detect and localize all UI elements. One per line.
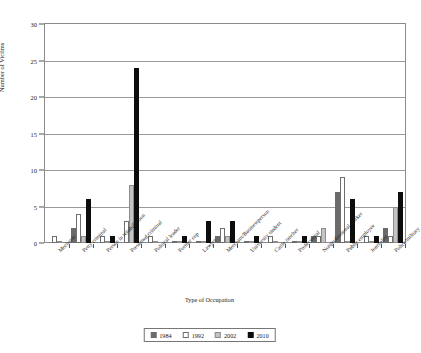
bar xyxy=(172,241,176,243)
bar xyxy=(52,236,56,243)
legend-swatch-icon xyxy=(183,332,189,338)
bar xyxy=(153,241,157,243)
bar-group xyxy=(381,24,405,243)
bar-group xyxy=(333,24,357,243)
bar-group xyxy=(45,24,69,243)
legend-swatch-icon xyxy=(247,332,253,338)
y-tick-label: 25 xyxy=(30,57,37,64)
legend-swatch-icon xyxy=(150,332,156,338)
bar-group xyxy=(93,24,117,243)
bar xyxy=(292,241,296,243)
legend-item: 2010 xyxy=(247,332,268,339)
bar xyxy=(398,192,402,243)
chart-legend: 1984199220022010 xyxy=(143,328,276,342)
x-axis-title: Type of Occupation xyxy=(0,296,419,303)
bar xyxy=(369,241,373,243)
legend-item: 1984 xyxy=(150,332,171,339)
legend-label: 1984 xyxy=(159,332,171,339)
bar xyxy=(86,199,90,243)
bar xyxy=(393,207,397,244)
y-axis-title: Number of Victims xyxy=(0,43,5,92)
bar-group xyxy=(309,24,333,243)
legend-item: 1992 xyxy=(183,332,204,339)
bar xyxy=(129,185,133,243)
y-tick-label: 15 xyxy=(30,130,37,137)
y-tick-label: 0 xyxy=(34,240,37,247)
bar xyxy=(225,236,229,243)
bar-group xyxy=(117,24,141,243)
bar-group xyxy=(165,24,189,243)
bar xyxy=(297,241,301,243)
y-axis: 051015202530 xyxy=(0,0,44,243)
bar-group xyxy=(213,24,237,243)
bar xyxy=(220,228,224,243)
legend-label: 2002 xyxy=(224,332,236,339)
bar xyxy=(196,241,200,243)
bar xyxy=(388,236,392,243)
bar-group xyxy=(69,24,93,243)
bar xyxy=(201,241,205,243)
bar-group xyxy=(285,24,309,243)
bar-group xyxy=(357,24,381,243)
y-tick-label: 20 xyxy=(30,94,37,101)
bar xyxy=(81,236,85,243)
bar-group xyxy=(237,24,261,243)
bar xyxy=(57,241,61,243)
y-tick-label: 10 xyxy=(30,167,37,174)
bar xyxy=(273,241,277,243)
legend-swatch-icon xyxy=(215,332,221,338)
y-tick-label: 5 xyxy=(34,203,37,210)
bar xyxy=(177,241,181,243)
bar xyxy=(244,241,248,243)
legend-label: 2010 xyxy=(256,332,268,339)
y-tick-label: 30 xyxy=(30,21,37,28)
bar xyxy=(105,241,109,243)
bar xyxy=(345,241,349,243)
legend-item: 2002 xyxy=(215,332,236,339)
bar-group xyxy=(141,24,165,243)
legend-label: 1992 xyxy=(192,332,204,339)
bar xyxy=(321,228,325,243)
bar xyxy=(76,214,80,243)
bar-group xyxy=(189,24,213,243)
bars-layer xyxy=(45,24,405,243)
bar xyxy=(249,241,253,243)
